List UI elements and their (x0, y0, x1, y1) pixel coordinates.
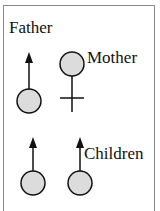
child-1-symbol (21, 137, 45, 195)
mother-label: Mother (87, 48, 137, 67)
father-arrow-head-icon (25, 52, 33, 63)
child-2-circle (68, 171, 92, 195)
family-diagram: Father Mother Children (0, 0, 160, 211)
father-circle (17, 89, 41, 113)
child-1-arrow-head-icon (29, 137, 37, 148)
mother-circle (60, 52, 84, 76)
father-label: Father (9, 18, 53, 37)
father-symbol (17, 52, 41, 113)
child-1-circle (21, 171, 45, 195)
children-label: Children (84, 144, 144, 163)
child-2-arrow-head-icon (76, 137, 84, 148)
mother-symbol (60, 52, 84, 112)
